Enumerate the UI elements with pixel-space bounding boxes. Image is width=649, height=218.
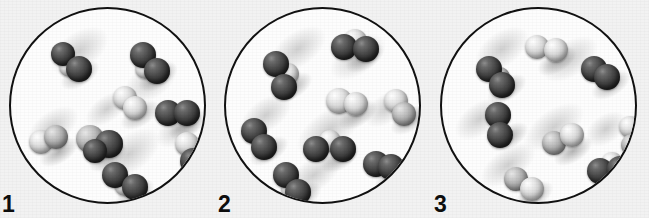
atom-dark [271,74,297,100]
atom-dark [303,136,329,162]
atom-dark [330,136,356,162]
atom-dark [251,134,277,160]
atom-dark [83,139,107,163]
molecule-circle-2 [224,7,421,204]
panel-label-2: 2 [218,193,230,216]
atom-dark [122,174,148,200]
panel-label-3: 3 [434,193,446,216]
atom-light [344,92,368,116]
atom-light [560,123,584,147]
atom-light [520,177,544,201]
atom-dark [607,156,633,182]
atom-dark [174,100,200,126]
atom-dark [353,36,379,62]
molecular-views-figure: 123 [0,0,649,218]
atom-dark [180,148,206,174]
background-smudge [520,14,620,104]
panel-label-1: 1 [2,193,14,216]
atom-dark [594,64,620,90]
atom-dark [489,72,515,98]
atom-dark [66,56,92,82]
atom-mid [44,125,68,149]
atom-dark [144,58,170,84]
atom-mid [392,102,416,126]
background-smudge [26,7,131,99]
molecule-circle-1 [9,7,206,204]
atom-dark [378,154,404,180]
atom-light [544,38,568,62]
atom-mid [621,134,637,156]
molecule-circle-3 [440,7,637,204]
atom-dark [285,179,311,204]
atom-light [123,96,147,120]
atom-dark [487,122,513,148]
